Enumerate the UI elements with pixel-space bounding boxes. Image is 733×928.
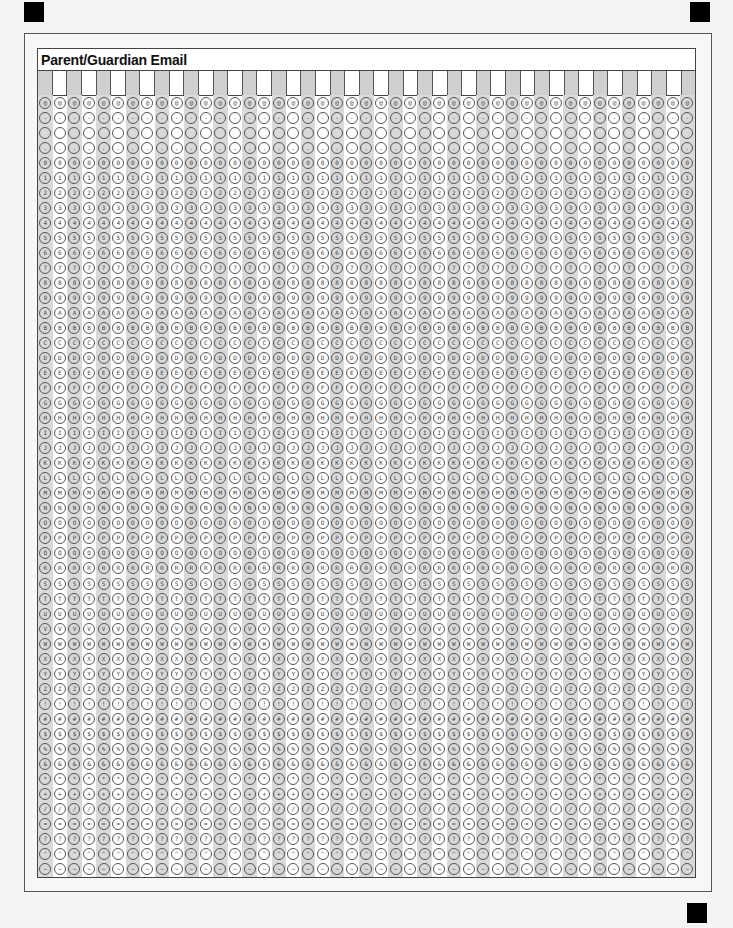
bubble-option[interactable]: O	[140, 516, 155, 531]
bubble-option[interactable]: @	[242, 95, 257, 110]
bubble-option[interactable]: !	[272, 696, 287, 711]
bubble-option[interactable]: Y	[184, 666, 199, 681]
bubble-option[interactable]: O	[67, 516, 82, 531]
bubble-option[interactable]: T	[680, 591, 695, 606]
bubble-option[interactable]: F	[272, 381, 287, 396]
bubble-option[interactable]: Z	[447, 681, 462, 696]
bubble-option[interactable]: ~	[374, 862, 389, 877]
bubble-option[interactable]: L	[96, 471, 111, 486]
bubble-option[interactable]: G	[636, 396, 651, 411]
bubble-option[interactable]: G	[534, 396, 549, 411]
bubble-option[interactable]: 9	[490, 290, 505, 305]
bubble-option[interactable]: G	[257, 396, 272, 411]
bubble-option[interactable]: 4	[96, 215, 111, 230]
bubble-option[interactable]: L	[651, 471, 666, 486]
bubble-option[interactable]: E	[67, 366, 82, 381]
bubble-option[interactable]: E	[359, 366, 374, 381]
bubble-option[interactable]: ?	[344, 832, 359, 847]
bubble-option[interactable]: D	[96, 351, 111, 366]
bubble-option[interactable]: *	[490, 771, 505, 786]
bubble-option[interactable]: !	[578, 696, 593, 711]
bubble-option[interactable]: %	[578, 741, 593, 756]
bubble-option[interactable]: +	[344, 786, 359, 801]
bubble-option[interactable]: R	[96, 561, 111, 576]
bubble-option[interactable]: T	[330, 591, 345, 606]
bubble-option[interactable]: $	[578, 726, 593, 741]
bubble-option[interactable]: ^	[520, 847, 535, 862]
bubble-option[interactable]: B	[330, 320, 345, 335]
bubble-option[interactable]: G	[228, 396, 243, 411]
bubble-option[interactable]: C	[242, 336, 257, 351]
bubble-option[interactable]: 1	[593, 170, 608, 185]
bubble-option[interactable]: 6	[578, 245, 593, 260]
bubble-option[interactable]: 1	[607, 170, 622, 185]
bubble-option[interactable]: A	[67, 305, 82, 320]
bubble-option[interactable]: J	[636, 441, 651, 456]
bubble-option[interactable]: ?	[199, 832, 214, 847]
bubble-option[interactable]: R	[315, 561, 330, 576]
bubble-option[interactable]: 4	[82, 215, 97, 230]
bubble-option[interactable]: N	[155, 501, 170, 516]
bubble-option[interactable]: U	[563, 606, 578, 621]
bubble-option[interactable]: R	[549, 561, 564, 576]
bubble-option[interactable]: B	[403, 320, 418, 335]
bubble-option[interactable]: G	[593, 396, 608, 411]
bubble-option[interactable]: +	[359, 786, 374, 801]
bubble-option[interactable]: 7	[549, 260, 564, 275]
bubble-option[interactable]: %	[636, 741, 651, 756]
bubble-option[interactable]: Z	[432, 681, 447, 696]
bubble-option[interactable]: 8	[184, 275, 199, 290]
bubble-option[interactable]: C	[593, 336, 608, 351]
bubble-option[interactable]: ~	[344, 862, 359, 877]
bubble-option[interactable]: G	[286, 396, 301, 411]
bubble-option[interactable]: $	[228, 726, 243, 741]
bubble-option[interactable]: Q	[257, 546, 272, 561]
bubble-option[interactable]: K	[169, 456, 184, 471]
bubble-option[interactable]: D	[330, 351, 345, 366]
bubble-option[interactable]: L	[578, 471, 593, 486]
bubble-option[interactable]: H	[549, 411, 564, 426]
bubble-option[interactable]: /	[169, 801, 184, 816]
bubble-option[interactable]: N	[272, 501, 287, 516]
bubble-option[interactable]: %	[593, 741, 608, 756]
bubble-option[interactable]: P	[374, 531, 389, 546]
bubble-option[interactable]: G	[199, 396, 214, 411]
bubble-option[interactable]: H	[242, 411, 257, 426]
bubble-option[interactable]: C	[534, 336, 549, 351]
bubble-option[interactable]: W	[666, 636, 681, 651]
bubble-option[interactable]: 9	[111, 290, 126, 305]
bubble-option[interactable]: I	[432, 426, 447, 441]
bubble-option[interactable]: ^	[228, 847, 243, 862]
bubble-option[interactable]: 3	[520, 200, 535, 215]
bubble-option[interactable]: 0	[447, 155, 462, 170]
bubble-option[interactable]: ^	[242, 847, 257, 862]
bubble-option[interactable]: Y	[242, 666, 257, 681]
bubble-option[interactable]: 3	[549, 200, 564, 215]
bubble-option[interactable]: D	[184, 351, 199, 366]
bubble-option[interactable]: T	[520, 591, 535, 606]
bubble-option[interactable]: Z	[417, 681, 432, 696]
bubble-option[interactable]: O	[286, 516, 301, 531]
bubble-option[interactable]: J	[403, 441, 418, 456]
bubble-option[interactable]: %	[403, 741, 418, 756]
bubble-option[interactable]: X	[520, 651, 535, 666]
bubble-option[interactable]: T	[388, 591, 403, 606]
bubble-option[interactable]: N	[680, 501, 695, 516]
bubble-option[interactable]: K	[199, 456, 214, 471]
bubble-option[interactable]: $	[622, 726, 637, 741]
bubble-option[interactable]: 0	[242, 155, 257, 170]
bubble-option[interactable]: &	[111, 756, 126, 771]
bubble-option[interactable]: -	[242, 110, 257, 125]
bubble-option[interactable]: 2	[330, 185, 345, 200]
bubble-option[interactable]: #	[82, 711, 97, 726]
bubble-option[interactable]: #	[67, 711, 82, 726]
bubble-option[interactable]: S	[432, 576, 447, 591]
bubble-option[interactable]: M	[432, 486, 447, 501]
bubble-option[interactable]: 7	[111, 260, 126, 275]
bubble-option[interactable]: Y	[607, 666, 622, 681]
write-in-box[interactable]	[579, 71, 594, 95]
write-in-box[interactable]	[67, 71, 82, 95]
bubble-option[interactable]: 7	[228, 260, 243, 275]
bubble-option[interactable]: A	[520, 305, 535, 320]
bubble-option[interactable]: W	[330, 636, 345, 651]
